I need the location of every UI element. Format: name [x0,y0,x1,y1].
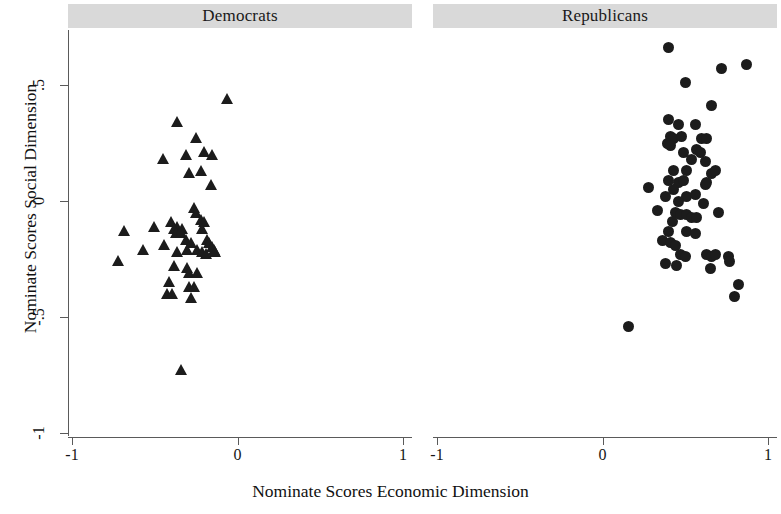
y-tick-label: -1 [22,424,56,442]
data-point-circle [690,228,701,239]
data-point-circle [710,165,721,176]
data-point-triangle [168,260,180,271]
panel-header-democrats: Democrats [68,4,412,28]
plot-area-republicans [433,30,777,436]
data-point-triangle [196,223,208,234]
data-point-triangle [206,149,218,160]
data-point-triangle [137,244,149,255]
data-point-triangle [118,225,130,236]
data-point-circle [680,77,691,88]
data-point-circle [652,205,663,216]
data-point-circle [673,119,684,130]
data-point-circle [733,279,744,290]
data-point-circle [686,154,697,165]
plot-area-democrats [68,30,412,436]
data-point-circle [660,258,671,269]
y-tick [60,85,68,86]
x-tick-label: -1 [417,446,457,464]
data-point-circle [701,133,712,144]
x-tick-label: -1 [52,446,92,464]
data-point-circle [676,131,687,142]
data-point-circle [741,59,752,70]
data-point-circle [691,212,702,223]
data-point-circle [698,198,709,209]
x-axis-line-democrats [68,437,412,438]
data-point-circle [671,260,682,271]
data-point-circle [623,321,634,332]
data-point-triangle [205,179,217,190]
x-tick [238,437,239,445]
data-point-circle [678,175,689,186]
x-axis-line-republicans [433,437,777,438]
data-point-circle [665,140,676,151]
data-point-circle [660,191,671,202]
panel-header-republicans: Republicans [433,4,777,28]
data-point-triangle [176,223,188,234]
data-point-triangle [163,276,175,287]
data-point-triangle [221,93,233,104]
data-point-circle [724,256,735,267]
x-tick [72,437,73,445]
data-point-triangle [157,153,169,164]
x-axis-title: Nominate Scores Economic Dimension [0,481,781,502]
x-tick-label: 0 [218,446,258,464]
x-tick [437,437,438,445]
y-axis-title: Nominate Scores Social Dimension [20,29,41,389]
data-point-triangle [158,239,170,250]
data-point-triangle [112,255,124,266]
data-point-circle [729,291,740,302]
y-axis-line [68,30,69,436]
panel-title-democrats: Democrats [202,6,277,26]
data-point-triangle [175,364,187,375]
data-point-triangle [190,132,202,143]
data-point-circle [705,263,716,274]
data-point-circle [716,63,727,74]
x-tick [603,437,604,445]
data-point-circle [690,119,701,130]
data-point-triangle [148,221,160,232]
y-tick [60,201,68,202]
data-point-circle [643,182,654,193]
data-point-circle [713,207,724,218]
data-point-triangle [180,149,192,160]
data-point-triangle [188,281,200,292]
data-point-triangle [191,267,203,278]
y-tick [60,433,68,434]
x-tick [768,437,769,445]
panel-title-republicans: Republicans [562,6,648,26]
data-point-circle [706,100,717,111]
data-point-triangle [166,288,178,299]
data-point-triangle [195,165,207,176]
data-point-circle [663,42,674,53]
scatter-plot-figure: Democrats Republicans .50-.5-1-101-101 N… [0,0,781,514]
data-point-triangle [183,167,195,178]
x-tick-label: 1 [748,446,781,464]
data-point-circle [700,156,711,167]
data-point-circle [680,251,691,262]
data-point-circle [690,189,701,200]
x-tick [403,437,404,445]
data-point-circle [710,249,721,260]
data-point-triangle [185,292,197,303]
data-point-triangle [209,246,221,257]
data-point-circle [673,196,684,207]
x-tick-label: 0 [583,446,623,464]
y-tick [60,317,68,318]
data-point-triangle [171,116,183,127]
